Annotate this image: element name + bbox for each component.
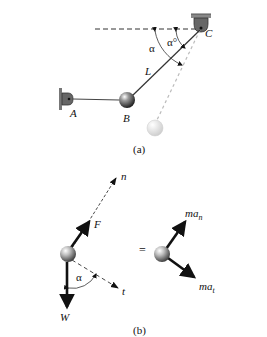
- faded-pendulum-rod: [157, 30, 200, 120]
- figure-b: n F α t W = man mat (b): [60, 170, 215, 337]
- label-f: F: [93, 218, 101, 230]
- label-ma-n: man: [185, 207, 202, 222]
- ma-n-arrow: [166, 222, 185, 249]
- label-b: B: [123, 112, 130, 124]
- label-alpha-b: α: [76, 271, 82, 283]
- label-a: A: [69, 107, 77, 119]
- label-alpha0: α°: [167, 36, 177, 48]
- label-l: L: [144, 65, 151, 77]
- caption-a: (a): [133, 143, 146, 156]
- ball-fbd: [60, 246, 76, 262]
- cable-ab: [73, 99, 119, 100]
- alpha-arc-b: [68, 274, 96, 288]
- pendulum-diagram: C α α° L A B (a) n F α t W = man: [0, 0, 267, 337]
- force-f-arrow: [70, 222, 89, 249]
- label-t: t: [122, 285, 126, 297]
- label-c: C: [205, 27, 213, 39]
- caption-b: (b): [133, 324, 146, 337]
- label-alpha-a: α: [149, 42, 155, 54]
- ball-b: [119, 92, 135, 108]
- figure-a: C α α° L A B (a): [59, 14, 213, 156]
- label-ma-t: mat: [199, 280, 215, 295]
- equals-sign: =: [139, 243, 146, 257]
- ball-kinetic: [154, 246, 170, 262]
- ma-t-arrow: [168, 258, 194, 277]
- rod-l: [131, 30, 200, 97]
- faded-ball: [147, 120, 163, 136]
- label-n: n: [121, 170, 127, 182]
- label-w: W: [60, 311, 70, 323]
